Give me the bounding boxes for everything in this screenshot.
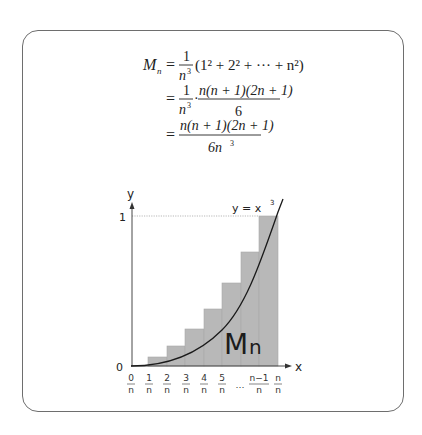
- y-tick-0: 0: [116, 361, 123, 374]
- formula-line-3: = n(n + 1)(2n + 1) 6n 3: [166, 118, 274, 155]
- x-tick-0: 0 n: [127, 373, 135, 395]
- svg-text:n: n: [219, 385, 225, 395]
- svg-text:5: 5: [219, 373, 225, 383]
- curve-label-sup: 3: [270, 199, 274, 207]
- svg-text:n−1: n−1: [250, 373, 269, 383]
- frac2-den: n: [179, 102, 186, 117]
- svg-text:3: 3: [183, 373, 189, 383]
- sum-squares: (1² + 2² + ··· + n²): [195, 57, 304, 74]
- formula-line-1: M n = 1 n 3 (1² + 2² + ··· + n²): [142, 49, 304, 83]
- formula-line-2: = 1 n 3 · n(n + 1)(2n + 1) 6: [166, 83, 293, 119]
- svg-text:n: n: [256, 385, 262, 395]
- svg-text:n: n: [164, 385, 170, 395]
- svg-text:4: 4: [201, 373, 207, 383]
- frac1-den-sup: 3: [187, 67, 191, 76]
- frac4-num: n(n + 1)(2n + 1): [180, 118, 274, 134]
- y-axis-arrow-icon: [130, 202, 135, 209]
- lhs-m: M: [142, 56, 158, 73]
- svg-text:n: n: [275, 385, 281, 395]
- svg-text:n: n: [201, 385, 207, 395]
- equals-1: =: [166, 56, 175, 73]
- svg-text:1: 1: [146, 373, 152, 383]
- dot-operator: ·: [194, 91, 199, 106]
- svg-text:n: n: [128, 385, 134, 395]
- svg-text:n: n: [275, 373, 281, 383]
- frac4-den-sup: 3: [230, 139, 234, 148]
- diagram-canvas: M n = 1 n 3 (1² + 2² + ··· + n²) = 1 n 3…: [0, 0, 422, 435]
- lhs-sub: n: [157, 66, 162, 76]
- x-tick-4: 4 n: [200, 373, 208, 395]
- y-axis-label: y: [127, 187, 134, 201]
- curve-label: y = x: [232, 202, 262, 215]
- svg-text:n: n: [146, 385, 152, 395]
- x-tick-2: 2 n: [163, 373, 171, 395]
- x-tick-1: 1 n: [145, 373, 153, 395]
- equals-2: =: [166, 90, 175, 107]
- frac3-num: n(n + 1)(2n + 1): [199, 83, 293, 99]
- svg-text:2: 2: [164, 373, 170, 383]
- svg-text:0: 0: [128, 373, 134, 383]
- x-axis-arrow-icon: [285, 364, 292, 369]
- area-label-sub: n: [249, 335, 262, 359]
- equals-3: =: [166, 126, 175, 143]
- svg-text:n: n: [183, 385, 189, 395]
- x-tick-labels: 0 n 1 n 2 n 3 n 4 n 5 n …: [127, 373, 282, 395]
- area-label: M: [224, 328, 248, 361]
- x-tick-n-minus-1: n−1 n: [249, 373, 269, 395]
- frac1-num: 1: [183, 49, 190, 64]
- frac4-den: 6n: [208, 140, 222, 155]
- frac3-den: 6: [235, 104, 242, 119]
- x-tick-5: 5 n: [218, 373, 226, 395]
- frac1-den: n: [179, 68, 186, 83]
- frac2-num: 1: [183, 83, 190, 98]
- x-tick-3: 3 n: [182, 373, 190, 395]
- x-tick-ellipsis: …: [236, 380, 245, 390]
- x-axis-label: x: [295, 360, 302, 374]
- y-tick-1: 1: [119, 211, 126, 224]
- frac2-den-sup: 3: [187, 101, 191, 110]
- x-tick-n: n n: [274, 373, 282, 395]
